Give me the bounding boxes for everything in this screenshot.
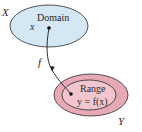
domain-set: X Domain x	[1, 5, 88, 47]
range-region-label: Range	[80, 83, 106, 94]
function-mapping-diagram: X Domain x Range y = f(x) Y f	[0, 0, 142, 132]
codomain-set: Range y = f(x) Y	[54, 74, 128, 127]
mapping-label: f	[38, 56, 43, 68]
codomain-set-label: Y	[118, 115, 126, 127]
domain-element-label: x	[29, 21, 35, 32]
domain-region-label: Domain	[37, 12, 69, 23]
domain-set-label: X	[1, 6, 10, 18]
range-element-label: y = f(x)	[77, 96, 108, 108]
